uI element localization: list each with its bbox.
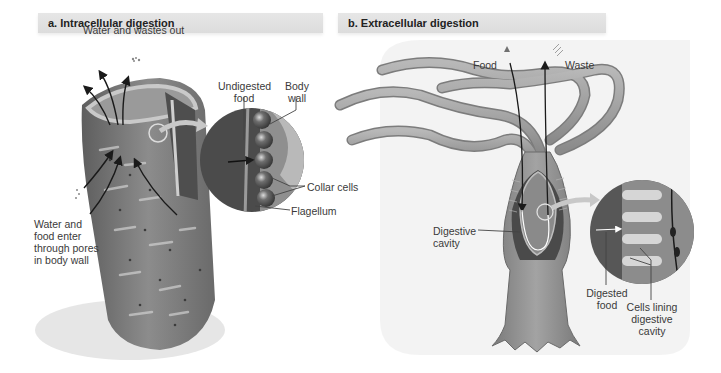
label-body-wall: Body wall xyxy=(282,80,312,104)
label-food: Food xyxy=(473,59,497,71)
label-line: digestive xyxy=(620,313,684,325)
label-line: Water and xyxy=(34,218,99,230)
label-line: cavity xyxy=(620,325,684,337)
label-line: cavity xyxy=(433,237,476,249)
label-line: food enter xyxy=(34,230,99,242)
label-line: Cells lining xyxy=(620,301,684,313)
label-collar-cells: Collar cells xyxy=(307,181,358,193)
label-line: food xyxy=(218,92,270,104)
label-line: wall xyxy=(282,92,312,104)
collar-cell-inset xyxy=(200,100,320,220)
label-undigested-food: Undigested food xyxy=(218,80,270,104)
diagram-artwork xyxy=(0,0,721,373)
label-line: Digested xyxy=(582,287,632,299)
label-digestive-cavity: Digestive cavity xyxy=(433,225,476,249)
label-water-food-enter: Water and food enter through pores in bo… xyxy=(34,218,99,266)
label-line: Digestive xyxy=(433,225,476,237)
label-flagellum: Flagellum xyxy=(291,205,337,217)
label-cells-lining-digestive-cavity: Cells lining digestive cavity xyxy=(620,301,684,337)
label-line: through pores xyxy=(34,242,99,254)
label-line: Undigested xyxy=(218,80,270,92)
label-water-wastes-out: Water and wastes out xyxy=(83,24,184,36)
label-line: Body xyxy=(282,80,312,92)
label-line: in body wall xyxy=(34,254,99,266)
label-waste: Waste xyxy=(565,59,594,71)
